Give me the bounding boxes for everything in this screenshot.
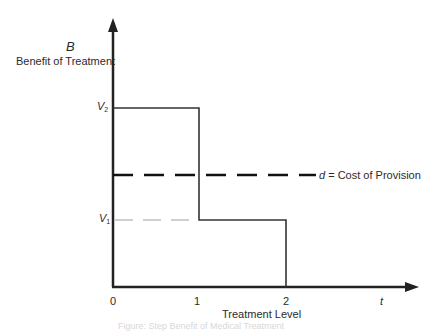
v1-subscript: 1	[106, 218, 110, 225]
y-axis-label: Benefit of Treatment	[16, 56, 115, 67]
figure-caption: Figure: Step Benefit of Medical Treatmen…	[118, 321, 284, 331]
y-axis-symbol: B	[66, 40, 75, 53]
x-axis-symbol: t	[380, 296, 383, 307]
x-axis-arrow-icon	[405, 282, 419, 292]
v1-label: V1	[99, 213, 110, 225]
v2-subscript: 2	[104, 106, 108, 113]
cost-text: = Cost of Provision	[325, 169, 421, 181]
diagram-canvas	[0, 0, 433, 332]
x-tick-1: 1	[194, 296, 200, 307]
x-axis-label: Treatment Level	[222, 309, 301, 320]
x-tick-2: 2	[283, 296, 289, 307]
x-tick-0: 0	[110, 296, 116, 307]
y-axis-arrow-icon	[108, 18, 118, 32]
cost-label: d = Cost of Provision	[319, 170, 421, 181]
benefit-step-line	[113, 108, 286, 287]
v2-label: V2	[97, 101, 108, 113]
